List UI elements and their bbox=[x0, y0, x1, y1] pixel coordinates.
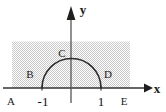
point-label-D: D bbox=[104, 68, 112, 80]
point-label-B: B bbox=[26, 68, 33, 80]
tick-label-one: 1 bbox=[98, 94, 105, 109]
y-axis-label: y bbox=[80, 2, 87, 17]
point-label-C: C bbox=[58, 47, 65, 59]
y-axis-arrowhead bbox=[67, 6, 76, 20]
geometry-diagram: x y A B C D E -1 1 bbox=[0, 0, 166, 112]
x-axis-label: x bbox=[154, 81, 161, 96]
point-label-A: A bbox=[7, 95, 15, 107]
point-label-E: E bbox=[121, 95, 128, 107]
figure-canvas: x y A B C D E -1 1 bbox=[0, 0, 166, 112]
x-axis-arrowhead bbox=[144, 84, 153, 93]
tick-label-neg-one: -1 bbox=[38, 94, 49, 109]
